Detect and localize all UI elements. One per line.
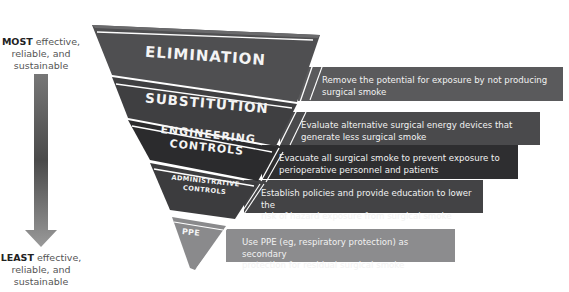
desc-line: Remove the potential for exposure by not… [322, 75, 562, 87]
desc-line: generate less surgical smoke [301, 132, 537, 144]
desc-line: Evaluate alternative surgical energy dev… [301, 120, 537, 132]
tier-description-administrative: Establish policies and provide education… [261, 181, 483, 223]
desc-line: protection for residual surgical smoke [242, 260, 454, 272]
desc-line: risk of hazard exposure from surgical sm… [261, 211, 483, 223]
desc-line: Establish policies and provide education… [261, 188, 483, 211]
desc-line: Use PPE (eg, respiratory protection) as … [242, 237, 454, 260]
tier-description-engineering: Evacuate all surgical smoke to prevent e… [279, 146, 517, 176]
tier-description-substitution: Evaluate alternative surgical energy dev… [301, 113, 537, 143]
desc-line: perioperative personnel and patients [279, 165, 517, 177]
tier-description-ppe: Use PPE (eg, respiratory protection) as … [242, 230, 454, 272]
desc-line: surgical smoke [322, 87, 562, 99]
tier-description-elimination: Remove the potential for exposure by not… [322, 68, 562, 98]
desc-line: Evacuate all surgical smoke to prevent e… [279, 153, 517, 165]
tier-shape-ppe [172, 217, 226, 270]
